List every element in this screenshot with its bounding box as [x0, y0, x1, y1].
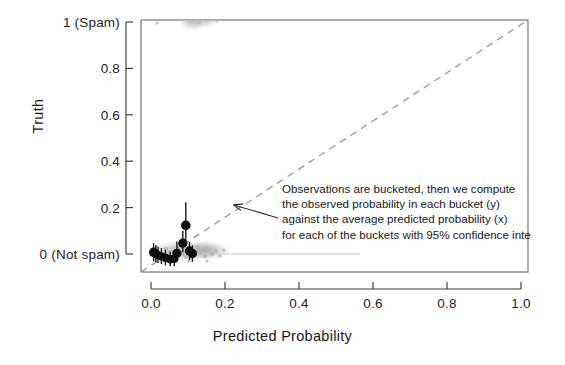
- x-tick-label-0-0: 0.0: [141, 296, 160, 311]
- x-axis: [151, 282, 521, 289]
- y-tick-label-0-not-spam: 0 (Not spam): [0, 247, 120, 262]
- y-tick-label-0-8: 0.8: [0, 61, 120, 76]
- x-tick-label-0-4: 0.4: [289, 296, 308, 311]
- y-tick-label-0-4: 0.4: [0, 154, 120, 169]
- annotation-text: Observations are bucketed, then we compu…: [282, 181, 532, 242]
- x-tick-label-0-6: 0.6: [363, 296, 382, 311]
- annotation-line-3: against the average predicted probabilit…: [282, 211, 532, 226]
- y-axis-title: Truth: [30, 86, 46, 146]
- x-tick-label-0-2: 0.2: [215, 296, 234, 311]
- y-axis: [126, 22, 133, 254]
- x-tick-label-0-8: 0.8: [437, 296, 456, 311]
- calibration-points: [149, 202, 197, 266]
- y-tick-label-0-6: 0.6: [0, 108, 120, 123]
- x-axis-title: Predicted Probability: [0, 328, 565, 344]
- calibration-plot-figure: 1 (Spam) 0.8 0.6 0.4 0.2 0 (Not spam) 0.…: [0, 0, 565, 365]
- annotation-arrow: [234, 205, 278, 218]
- annotation-line-2: the observed probability in each bucket …: [282, 196, 532, 211]
- y-tick-label-1-spam: 1 (Spam): [0, 15, 120, 30]
- annotation-line-1: Observations are bucketed, then we compu…: [282, 181, 532, 196]
- annotation-line-4: for each of the buckets with 95% confide…: [282, 227, 532, 242]
- y-tick-label-0-2: 0.2: [0, 201, 120, 216]
- x-tick-label-1-0: 1.0: [511, 296, 530, 311]
